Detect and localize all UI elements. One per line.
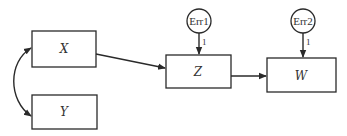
node-z-label: Z [193, 65, 203, 79]
err2-coefficient: 1 [306, 37, 311, 47]
node-w: W [267, 58, 336, 92]
node-w-label: W [295, 69, 309, 83]
node-err1-label: Err1 [189, 15, 209, 27]
node-err2-label: Err2 [293, 15, 313, 27]
node-err1: Err1 [187, 9, 211, 33]
node-z: Z [166, 55, 231, 88]
node-y-label: Y [60, 105, 69, 119]
path-diagram: X Y Z W Err1 1 Err2 1 [0, 0, 347, 136]
node-y: Y [32, 95, 97, 129]
node-x-label: X [59, 42, 69, 56]
path-arrow-x-z [96, 54, 165, 68]
covariance-arrow-x-y [14, 48, 31, 116]
node-err2: Err2 [291, 9, 315, 33]
node-x: X [32, 31, 96, 67]
err1-coefficient: 1 [202, 37, 207, 47]
